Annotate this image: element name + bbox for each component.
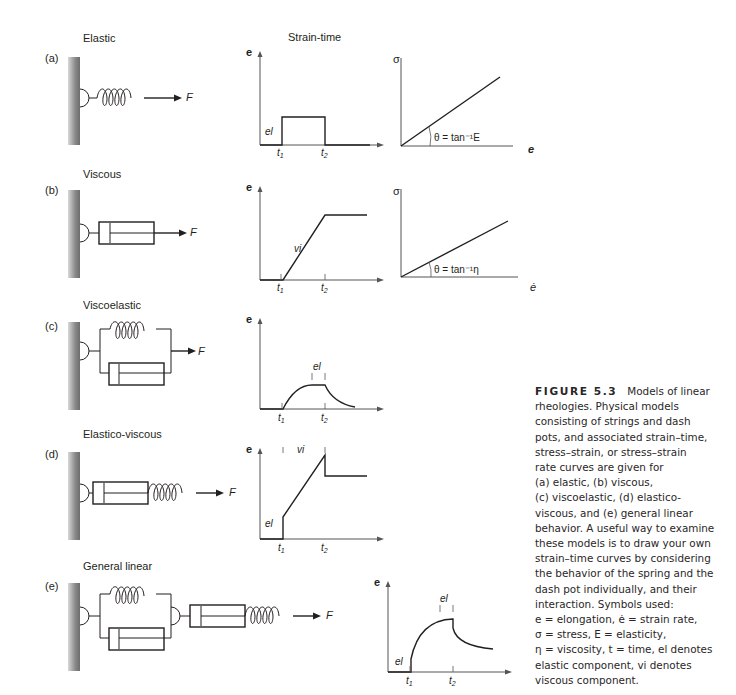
svg-text:el: el (265, 518, 274, 529)
svg-text:e: e (246, 181, 252, 193)
force-label-e: F (326, 609, 333, 621)
wall-c (68, 322, 80, 410)
caption-line: these models is to draw your own (535, 536, 735, 551)
column-header-strain-time: Strain-time (288, 31, 341, 43)
figure-number: FIGURE 5.3 (535, 385, 617, 397)
caption-line: interaction. Symbols used: (535, 597, 735, 612)
caption-line: e = elongation, ė = strain rate, (535, 612, 735, 627)
svg-text:e: e (528, 143, 534, 155)
panel-c-title: Viscoelastic (83, 299, 141, 311)
svg-text:el: el (440, 593, 449, 604)
svg-text:e: e (246, 46, 252, 58)
svg-text:t2: t2 (321, 412, 328, 424)
panel-d-title: Elastico-viscous (83, 428, 162, 440)
svg-text:vi: vi (297, 444, 305, 455)
chart-b-stress-strainrate: σ θ = tan⁻¹η ė (400, 185, 540, 295)
panel-e-title: General linear (83, 560, 152, 572)
elastico-viscous-model-diagram (80, 475, 280, 515)
caption-line: rheologies. Physical models (535, 399, 735, 414)
svg-text:t1: t1 (406, 675, 413, 687)
svg-text:t2: t2 (321, 282, 328, 294)
svg-text:el: el (265, 126, 274, 137)
caption-line: behavior. A useful way to examine (535, 521, 735, 536)
svg-text:t2: t2 (449, 675, 456, 687)
caption-line: viscous, and (e) general linear (535, 506, 735, 521)
caption-line: the behavior of the spring and the (535, 566, 735, 581)
caption-line: strain–time curves by considering (535, 551, 735, 566)
viscoelastic-model-diagram (80, 325, 280, 415)
caption-line: consisting of strings and dash (535, 414, 735, 429)
force-label-d: F (229, 486, 236, 498)
chart-a-strain-time: e el t1 t2 (255, 50, 375, 160)
svg-text:t1: t1 (278, 412, 285, 424)
caption-line: η = viscosity, t = time, el denotes (535, 642, 735, 657)
caption-line: elastic component, vi denotes (535, 658, 735, 673)
caption-line: stress–strain, or stress–strain (535, 445, 735, 460)
elastic-model-diagram (80, 80, 280, 120)
svg-text:t1: t1 (277, 147, 284, 159)
svg-text:t1: t1 (278, 542, 285, 554)
svg-text:θ = tan⁻¹E: θ = tan⁻¹E (434, 132, 480, 143)
svg-text:θ = tan⁻¹η: θ = tan⁻¹η (434, 264, 479, 275)
figure-caption: FIGURE 5.3 Models of linear rheologies. … (535, 384, 735, 688)
svg-text:σ: σ (393, 185, 400, 197)
svg-text:t1: t1 (277, 282, 284, 294)
svg-text:e: e (246, 313, 252, 325)
caption-line: viscous component. (535, 673, 735, 688)
caption-line: (c) viscoelastic, (d) elastico- (535, 490, 735, 505)
svg-text:el: el (313, 361, 322, 372)
chart-e-strain-time: e el el t1 t2 (383, 580, 503, 690)
force-label-c: F (198, 345, 205, 357)
panel-b-title: Viscous (83, 168, 121, 180)
svg-text:ė: ė (530, 281, 536, 293)
caption-line: rate curves are given for (535, 460, 735, 475)
caption-line: (a) elastic, (b) viscous, (535, 475, 735, 490)
caption-line: dash pot individually, and their (535, 582, 735, 597)
caption-line: pots, and associated strain–time, (535, 430, 735, 445)
force-label-a: F (186, 91, 193, 103)
viscous-model-diagram (80, 215, 280, 255)
svg-text:t2: t2 (321, 147, 328, 159)
caption-line: Models of linear (627, 385, 710, 397)
force-label-b: F (190, 226, 197, 238)
panel-b-letter: (b) (45, 184, 58, 196)
svg-text:vi: vi (294, 243, 302, 254)
wall-a (68, 57, 80, 145)
chart-a-stress-strain: σ θ = tan⁻¹E e (400, 50, 540, 160)
svg-text:t2: t2 (321, 542, 328, 554)
svg-text:e: e (374, 576, 380, 588)
svg-text:el: el (395, 656, 404, 667)
chart-b-strain-time: e vi t1 t2 (255, 185, 375, 295)
caption-line: σ = stress, E = elasticity, (535, 627, 735, 642)
svg-text:σ: σ (393, 53, 400, 65)
panel-d-letter: (d) (45, 448, 58, 460)
panel-a-letter: (a) (45, 52, 58, 64)
panel-c-letter: (c) (45, 320, 58, 332)
wall-b (68, 190, 80, 278)
wall-d (68, 452, 80, 540)
panel-e-letter: (e) (45, 580, 58, 592)
wall-e (68, 583, 80, 671)
chart-c-strain-time: e el t1 t2 (255, 317, 375, 427)
general-linear-model-diagram (80, 590, 360, 680)
svg-text:e: e (246, 443, 252, 455)
chart-d-strain-time: e vi el t1 t2 (255, 447, 375, 557)
panel-a-title: Elastic (83, 32, 115, 44)
